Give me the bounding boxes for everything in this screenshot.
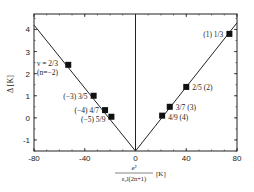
data-point — [159, 113, 165, 119]
y-tick-label: -1 — [23, 136, 31, 145]
x-axis-label-unit: [K] — [156, 170, 166, 178]
point-label: (−5) 5/9 — [81, 115, 106, 124]
point-label: 3/7 (3) — [176, 103, 197, 112]
fit-line — [34, 25, 136, 151]
chart: -80-4004080-101234 ν = 2/3(n=−2)(−3) 3/5… — [0, 0, 254, 192]
point-label: ν = 2/3 — [37, 59, 58, 68]
x-tick-label: 0 — [133, 154, 138, 163]
data-point — [226, 31, 232, 37]
x-tick-label: -80 — [28, 154, 40, 163]
x-axis-label: e² ε₀l(2n+1) [K] — [115, 164, 166, 183]
x-tick-label: 80 — [233, 154, 242, 163]
data-point — [183, 84, 189, 90]
x-axis-label-numerator: e² — [131, 164, 136, 172]
x-axis-label-denominator: ε₀l(2n+1) — [122, 175, 147, 183]
y-tick-label: 4 — [26, 25, 31, 34]
point-labels: ν = 2/3(n=−2)(−3) 3/5(−4) 4/7(−5) 5/9(1)… — [37, 30, 224, 124]
point-label: 4/9 (4) — [168, 113, 189, 122]
data-point — [65, 62, 71, 68]
y-tick-label: 3 — [26, 48, 31, 57]
point-label: (−3) 3/5 — [63, 92, 88, 101]
data-point — [91, 93, 97, 99]
y-tick-label: 2 — [26, 70, 31, 79]
x-tick-label: 40 — [182, 154, 191, 163]
y-axis-label: Δ [K] — [6, 75, 15, 93]
point-label: 2/5 (2) — [192, 83, 213, 92]
data-point — [102, 107, 108, 113]
point-label: (1) 1/3 — [203, 30, 223, 39]
x-tick-label: -40 — [79, 154, 91, 163]
point-label: (n=−2) — [37, 68, 58, 77]
data-point — [108, 114, 114, 120]
data-point — [167, 104, 173, 110]
y-tick-label: 1 — [26, 92, 31, 101]
y-tick-label: 0 — [26, 114, 31, 123]
